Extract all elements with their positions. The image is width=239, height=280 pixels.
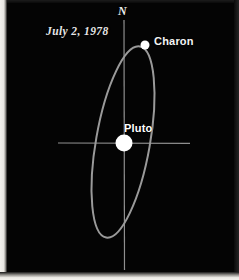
scan-edge-bottom [0, 272, 239, 280]
scan-edge-top [0, 0, 239, 3]
charon-label: Charon [154, 35, 194, 47]
pluto-body-marker [116, 135, 133, 152]
orbit-diagram-figure: N July 2, 1978 Charon Pluto [0, 0, 239, 280]
scan-edge-right [234, 0, 239, 280]
north-direction-label: N [118, 4, 127, 19]
charon-body-marker [141, 41, 150, 50]
observation-date-label: July 2, 1978 [46, 25, 109, 37]
scan-edge-left [0, 0, 7, 280]
pluto-label: Pluto [124, 122, 153, 134]
orbit-plot-svg [0, 0, 239, 280]
